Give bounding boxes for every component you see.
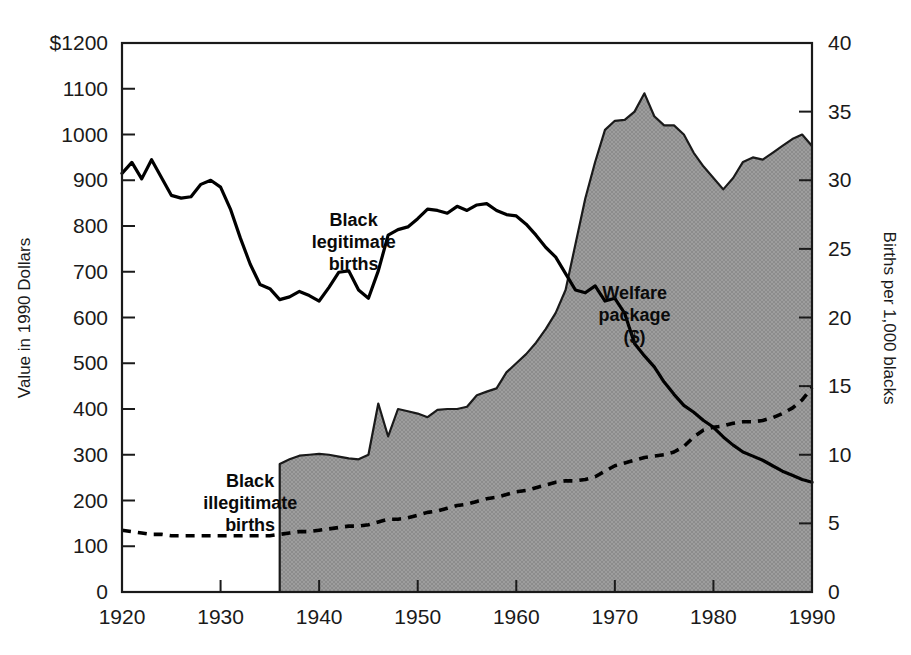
annotation-line: ($) xyxy=(624,327,646,347)
y2-tick-label: 40 xyxy=(828,31,851,54)
x-tick-label: 1920 xyxy=(99,605,146,628)
y2-tick-label: 5 xyxy=(828,511,840,534)
x-tick-label: 1930 xyxy=(197,605,244,628)
chart-svg: 010020030040050060070080090010001100$120… xyxy=(0,0,911,655)
y-tick-label: 500 xyxy=(73,351,108,374)
y-tick-label: 800 xyxy=(73,214,108,237)
x-tick-label: 1990 xyxy=(789,605,836,628)
svg-text:Value in 1990 Dollars: Value in 1990 Dollars xyxy=(15,238,34,398)
y-tick-label: 100 xyxy=(73,534,108,557)
x-tick-label: 1970 xyxy=(591,605,638,628)
y-tick-label: 0 xyxy=(96,580,108,603)
y2-tick-label: 20 xyxy=(828,306,851,329)
annotation-line: legitimate xyxy=(312,232,396,252)
y-tick-label: 400 xyxy=(73,397,108,420)
y2-tick-label: 25 xyxy=(828,237,851,260)
y-tick-label: 200 xyxy=(73,489,108,512)
x-tick-label: 1940 xyxy=(296,605,343,628)
x-tick-label: 1980 xyxy=(690,605,737,628)
y-tick-label: $1200 xyxy=(50,31,108,54)
annotation-line: Black xyxy=(226,471,275,491)
svg-text:Births per 1,000 blacks: Births per 1,000 blacks xyxy=(880,232,899,405)
y-tick-label: 700 xyxy=(73,260,108,283)
y-tick-label: 1000 xyxy=(61,123,108,146)
x-tick-label: 1950 xyxy=(394,605,441,628)
y-tick-label: 300 xyxy=(73,443,108,466)
y-tick-label: 900 xyxy=(73,168,108,191)
y2-tick-label: 30 xyxy=(828,168,851,191)
y-tick-label: 600 xyxy=(73,306,108,329)
annotation-line: Welfare xyxy=(602,283,667,303)
annotation-line: package xyxy=(599,305,671,325)
y-axis-right-title: Births per 1,000 blacks xyxy=(880,232,899,405)
annotation-line: Black xyxy=(330,210,379,230)
annotation-line: births xyxy=(329,254,379,274)
y2-tick-label: 0 xyxy=(828,580,840,603)
y2-tick-label: 10 xyxy=(828,443,851,466)
y-tick-label: 1100 xyxy=(63,77,108,100)
y2-tick-label: 15 xyxy=(828,374,851,397)
annotation-line: illegitimate xyxy=(203,493,297,513)
x-tick-label: 1960 xyxy=(493,605,540,628)
chart-container: 010020030040050060070080090010001100$120… xyxy=(0,0,911,655)
y-axis-left-title: Value in 1990 Dollars xyxy=(15,238,34,398)
annotation-line: births xyxy=(225,515,275,535)
y2-tick-label: 35 xyxy=(828,100,851,123)
